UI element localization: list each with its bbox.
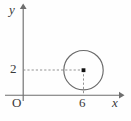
y-axis-label: y: [9, 3, 15, 16]
circle-center-point: [82, 68, 86, 72]
origin-label: O: [12, 96, 21, 109]
x-axis-arrowhead: [119, 92, 125, 99]
x-tick-label-6: 6: [79, 96, 86, 109]
y-tick-label-2: 2: [10, 62, 17, 75]
y-axis-arrowhead: [20, 4, 27, 10]
x-axis-label: x: [112, 96, 118, 109]
coordinate-plane-figure: y x O 2 6: [0, 0, 131, 121]
